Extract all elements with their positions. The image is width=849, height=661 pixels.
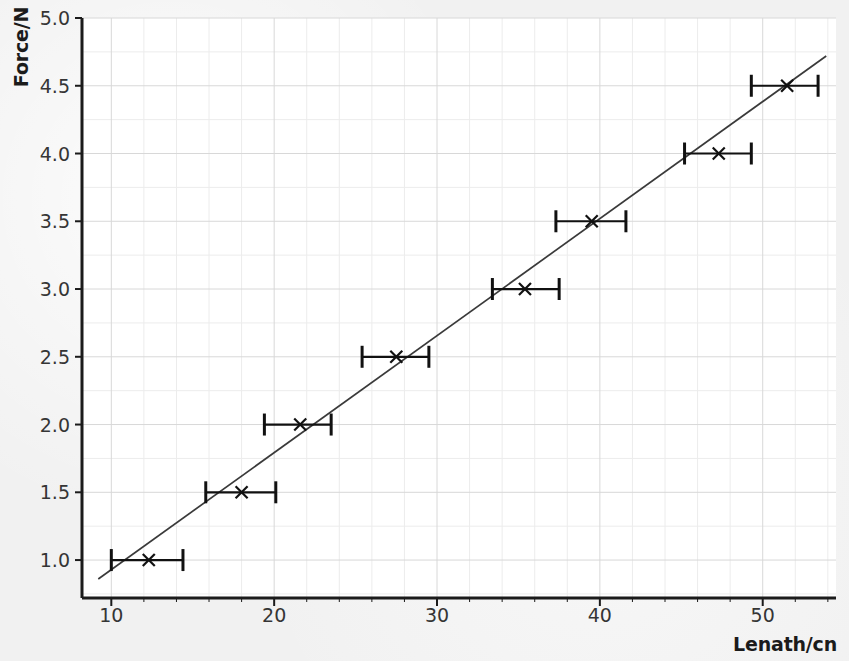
plot-canvas <box>0 0 849 661</box>
plot-background <box>82 18 836 598</box>
chart-root: Force/N Lenath/cn 1.01.52.02.53.03.54.04… <box>0 0 849 661</box>
plot-area-background <box>82 18 836 598</box>
